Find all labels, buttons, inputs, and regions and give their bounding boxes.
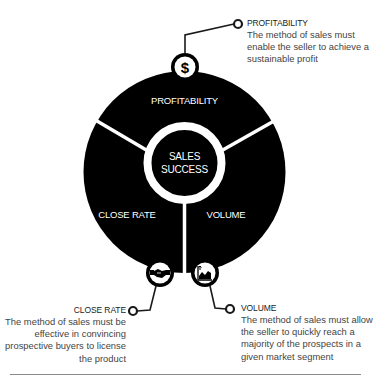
callout-description-close-rate: The method of sales must be effective in…: [4, 316, 126, 365]
handshake-icon: [146, 259, 174, 287]
callout-description-profitability: The method of sales must enable the sell…: [247, 29, 382, 66]
bottom-divider: [10, 374, 361, 375]
segment-label-profitability: PROFITABILITY: [151, 95, 219, 106]
callout-title-volume: VOLUME: [241, 303, 384, 314]
connector-end-profitability: [234, 20, 242, 28]
dollar-icon: $: [171, 53, 199, 81]
connector-end-volume: [226, 305, 234, 313]
callout-close-rate: CLOSE RATE The method of sales must be e…: [4, 305, 126, 365]
growth-chart-icon: [191, 259, 219, 287]
segment-label-volume: VOLUME: [207, 209, 246, 220]
callout-volume: VOLUME The method of sales must allow th…: [241, 303, 384, 363]
callout-profitability: PROFITABILITY The method of sales must e…: [247, 18, 382, 66]
segment-label-close-rate: CLOSE RATE: [98, 209, 155, 220]
center-label-line1: SALES: [169, 151, 201, 162]
connector-end-close-rate: [129, 307, 137, 315]
center-label-line2: SUCCESS: [161, 164, 208, 175]
callout-title-close-rate: CLOSE RATE: [4, 305, 126, 316]
center-ring: [148, 126, 222, 200]
callout-title-profitability: PROFITABILITY: [247, 18, 382, 29]
callout-description-volume: The method of sales must allow the selle…: [241, 314, 384, 363]
svg-text:$: $: [181, 59, 190, 76]
